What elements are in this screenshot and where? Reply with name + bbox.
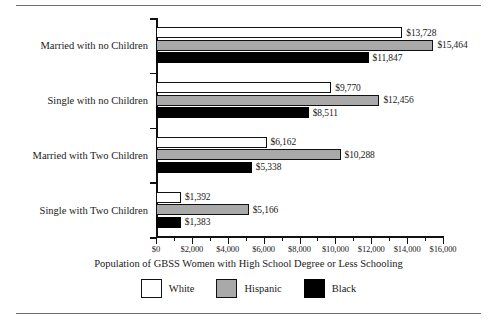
category-tick bbox=[150, 18, 157, 20]
bar-value-label: $6,162 bbox=[271, 137, 297, 147]
legend-swatch-hispanic bbox=[216, 279, 237, 298]
value-tick-label: $4,000 bbox=[216, 244, 239, 254]
category-tick bbox=[150, 182, 157, 184]
bar-value-label: $12,456 bbox=[383, 95, 413, 105]
bar-white bbox=[156, 27, 402, 38]
value-tick-minor bbox=[317, 237, 318, 241]
bar-black bbox=[156, 217, 181, 228]
bar-white bbox=[156, 137, 267, 148]
value-tick-major bbox=[443, 237, 444, 244]
legend-item-hispanic[interactable]: Hispanic bbox=[216, 279, 281, 298]
value-tick-major bbox=[228, 237, 229, 244]
value-tick-major bbox=[156, 237, 157, 244]
bar-value-label: $9,770 bbox=[335, 83, 361, 93]
category-label: Single with no Children bbox=[0, 95, 148, 106]
bar-value-label: $10,288 bbox=[345, 150, 375, 160]
value-tick-minor bbox=[425, 237, 426, 241]
value-tick-label: $2,000 bbox=[180, 244, 203, 254]
bar-hispanic bbox=[156, 204, 249, 215]
bar-white bbox=[156, 192, 181, 203]
bar-value-label: $15,464 bbox=[437, 40, 467, 50]
value-tick-label: $10,000 bbox=[322, 244, 349, 254]
value-tick-minor bbox=[246, 237, 247, 241]
legend-swatch-black bbox=[304, 279, 325, 298]
category-label: Married with Two Children bbox=[0, 149, 148, 160]
legend-label: Black bbox=[332, 283, 357, 294]
bar-value-label: $5,166 bbox=[253, 205, 279, 215]
value-tick-minor bbox=[389, 237, 390, 241]
top-rule bbox=[16, 5, 481, 6]
bar-value-label: $1,392 bbox=[185, 192, 211, 202]
bar-value-label: $11,847 bbox=[373, 53, 403, 63]
chart-legend: WhiteHispanicBlack bbox=[0, 279, 497, 298]
category-label: Single with Two Children bbox=[0, 204, 148, 215]
legend-item-black[interactable]: Black bbox=[304, 279, 357, 298]
category-label: Married with no Children bbox=[0, 40, 148, 51]
category-tick bbox=[150, 128, 157, 130]
category-tick bbox=[150, 73, 157, 75]
legend-swatch-white bbox=[141, 279, 162, 298]
bar-hispanic bbox=[156, 95, 379, 106]
value-tick-major bbox=[407, 237, 408, 244]
legend-label: Hispanic bbox=[244, 283, 281, 294]
value-tick-minor bbox=[174, 237, 175, 241]
bar-value-label: $13,728 bbox=[406, 28, 436, 38]
bar-hispanic bbox=[156, 149, 341, 160]
bar-value-label: $5,338 bbox=[256, 162, 282, 172]
value-tick-minor bbox=[282, 237, 283, 241]
bar-black bbox=[156, 52, 369, 63]
value-tick-major bbox=[371, 237, 372, 244]
value-tick-label: $6,000 bbox=[252, 244, 275, 254]
value-tick-major bbox=[264, 237, 265, 244]
legend-label: White bbox=[169, 283, 195, 294]
chart-figure: Married with no ChildrenSingle with no C… bbox=[0, 0, 497, 330]
value-tick-major bbox=[192, 237, 193, 244]
value-tick-major bbox=[335, 237, 336, 244]
bar-white bbox=[156, 82, 331, 93]
value-tick-minor bbox=[210, 237, 211, 241]
bar-hispanic bbox=[156, 40, 433, 51]
bar-value-label: $8,511 bbox=[313, 108, 338, 118]
legend-item-white[interactable]: White bbox=[141, 279, 195, 298]
bar-value-label: $1,383 bbox=[185, 217, 211, 227]
bar-black bbox=[156, 107, 309, 118]
value-tick-label: $14,000 bbox=[394, 244, 421, 254]
x-axis-title: Population of GBSS Women with High Schoo… bbox=[0, 258, 497, 269]
bar-black bbox=[156, 162, 252, 173]
value-tick-label: $16,000 bbox=[430, 244, 457, 254]
value-tick-major bbox=[300, 237, 301, 244]
value-tick-label: $0 bbox=[152, 244, 160, 254]
value-tick-label: $12,000 bbox=[358, 244, 385, 254]
value-tick-label: $8,000 bbox=[288, 244, 311, 254]
value-tick-minor bbox=[353, 237, 354, 241]
bottom-rule bbox=[16, 313, 481, 314]
